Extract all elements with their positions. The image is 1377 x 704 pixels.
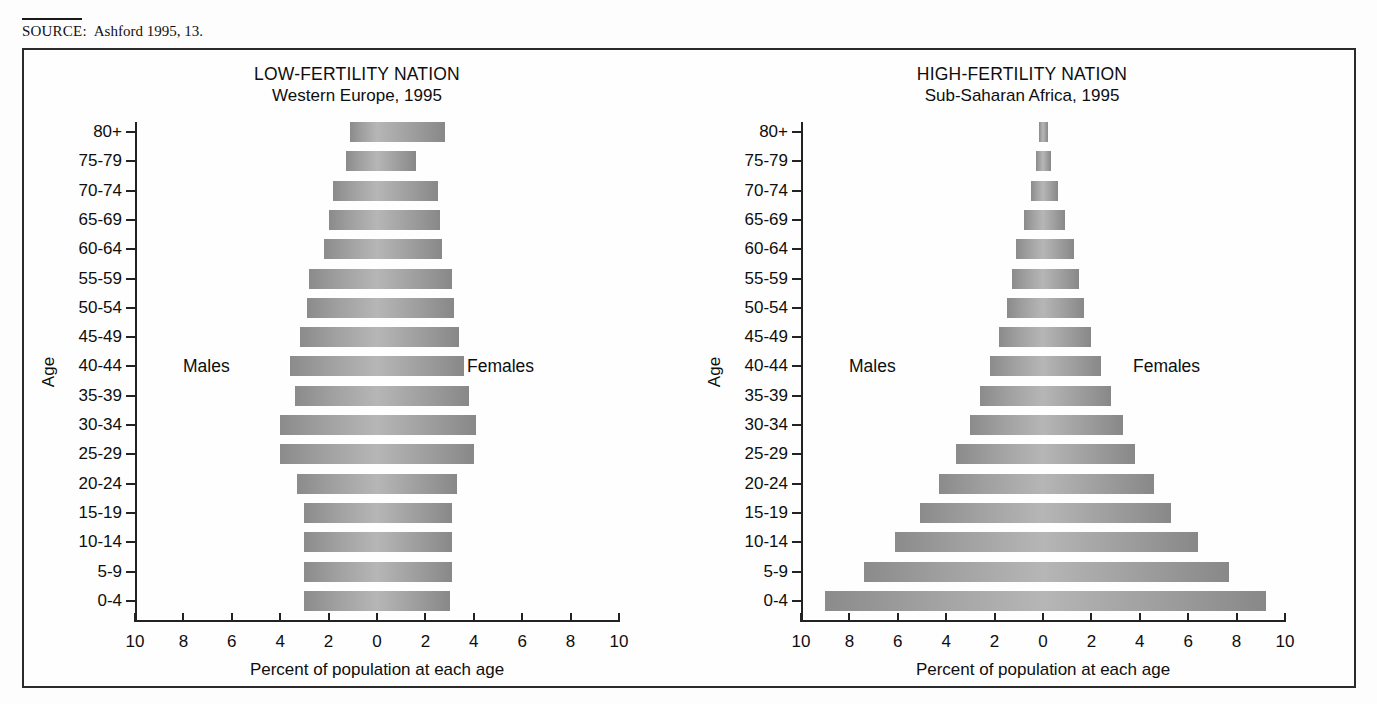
y-axis-tick-label: 30-34 [745, 415, 788, 435]
y-axis-tick-label: 80+ [93, 122, 122, 142]
y-axis-tick [126, 248, 135, 250]
x-axis-tick [570, 613, 572, 622]
y-axis-title: Age [39, 357, 59, 387]
y-axis-tick-label: 20-24 [79, 474, 122, 494]
y-axis-tick [792, 219, 801, 221]
panel-title-right: HIGH-FERTILITY NATION [690, 64, 1354, 85]
y-axis-tick [792, 190, 801, 192]
bar-female [377, 356, 464, 376]
x-axis-tick-label: 10 [126, 632, 145, 652]
x-axis-tick-label: 4 [469, 632, 478, 652]
y-axis-tick [792, 278, 801, 280]
bar-female [1043, 239, 1074, 259]
x-axis-tick [1236, 613, 1238, 622]
y-axis-tick-label: 15-19 [745, 503, 788, 523]
y-axis-tick-label: 45-49 [745, 327, 788, 347]
x-axis-tick-label: 2 [324, 632, 333, 652]
bar-male [297, 474, 377, 494]
y-axis-tick [126, 541, 135, 543]
bar-female [377, 591, 450, 611]
panel-title-block-left: LOW-FERTILITY NATION Western Europe, 199… [24, 64, 690, 106]
bar-male [304, 591, 377, 611]
bar-row [135, 415, 619, 435]
bar-row [801, 210, 1285, 230]
x-axis-tick-label: 2 [990, 632, 999, 652]
x-axis-tick [897, 613, 899, 622]
bar-female [1043, 210, 1065, 230]
bar-male [1036, 151, 1043, 171]
x-axis-tick [376, 613, 378, 622]
panel-title-block-right: HIGH-FERTILITY NATION Sub-Saharan Africa… [690, 64, 1354, 106]
y-axis-tick [792, 365, 801, 367]
y-axis-tick-label: 35-39 [745, 386, 788, 406]
bar-male [329, 210, 377, 230]
x-axis-tick-label: 6 [517, 632, 526, 652]
y-axis-tick-label: 65-69 [745, 210, 788, 230]
bar-male [1007, 298, 1043, 318]
bar-male [990, 356, 1043, 376]
figure-root: SOURCE:Ashford 1995, 13. LOW-FERTILITY N… [0, 0, 1377, 704]
bar-row [801, 474, 1285, 494]
bar-female [377, 532, 452, 552]
y-axis-tick-label: 55-59 [79, 269, 122, 289]
y-axis-tick-label: 65-69 [79, 210, 122, 230]
y-axis-tick [792, 395, 801, 397]
bar-row [801, 591, 1285, 611]
bar-female [1043, 503, 1171, 523]
bar-row [801, 562, 1285, 582]
x-axis-tick-label: 6 [227, 632, 236, 652]
bar-row [801, 151, 1285, 171]
x-axis-tick-label: 10 [792, 632, 811, 652]
bar-male [825, 591, 1043, 611]
x-axis-tick [473, 613, 475, 622]
x-axis-tick [182, 613, 184, 622]
y-axis-tick [792, 248, 801, 250]
y-axis-tick-label: 40-44 [79, 356, 122, 376]
y-axis-tick-label: 70-74 [79, 181, 122, 201]
bar-female [377, 239, 442, 259]
x-axis-tick [424, 613, 426, 622]
bar-row [135, 327, 619, 347]
y-axis-tick [126, 365, 135, 367]
bar-row [135, 298, 619, 318]
source-note: SOURCE:Ashford 1995, 13. [22, 23, 203, 40]
y-axis-tick-label: 50-54 [79, 298, 122, 318]
bar-female [377, 122, 445, 142]
y-axis-tick-label: 75-79 [79, 151, 122, 171]
y-axis-title: Age [705, 357, 725, 387]
bar-male [895, 532, 1043, 552]
y-axis-tick [126, 307, 135, 309]
x-axis-tick-label: 8 [179, 632, 188, 652]
panel-subtitle-left: Western Europe, 1995 [24, 85, 690, 106]
y-axis-tick-label: 0-4 [97, 591, 122, 611]
x-axis-tick-label: 8 [1232, 632, 1241, 652]
bar-female [1043, 532, 1198, 552]
x-axis-tick [994, 613, 996, 622]
y-axis-tick [126, 453, 135, 455]
bar-row [135, 532, 619, 552]
y-axis-tick-label: 40-44 [745, 356, 788, 376]
bar-male [864, 562, 1043, 582]
y-axis-tick-label: 15-19 [79, 503, 122, 523]
x-axis-tick-label: 0 [1038, 632, 1047, 652]
bar-female [377, 181, 438, 201]
x-axis-tick [1187, 613, 1189, 622]
bar-female [1043, 181, 1058, 201]
bar-female [1043, 298, 1084, 318]
y-axis-tick [126, 219, 135, 221]
bar-male [1031, 181, 1043, 201]
y-axis-tick-label: 25-29 [745, 444, 788, 464]
x-axis-tick-label: 4 [941, 632, 950, 652]
y-axis-tick-label: 60-64 [745, 239, 788, 259]
bar-row [135, 122, 619, 142]
x-axis-tick-label: 4 [1135, 632, 1144, 652]
y-axis-tick [792, 131, 801, 133]
y-axis-tick-label: 45-49 [79, 327, 122, 347]
bar-male [1024, 210, 1043, 230]
plot-area-right: 80+75-7970-7465-6960-6455-5950-5445-4940… [801, 122, 1285, 622]
bar-row [135, 444, 619, 464]
y-axis-tick [792, 600, 801, 602]
y-axis-tick-label: 50-54 [745, 298, 788, 318]
bar-row [801, 269, 1285, 289]
y-axis-tick-label: 5-9 [97, 562, 122, 582]
